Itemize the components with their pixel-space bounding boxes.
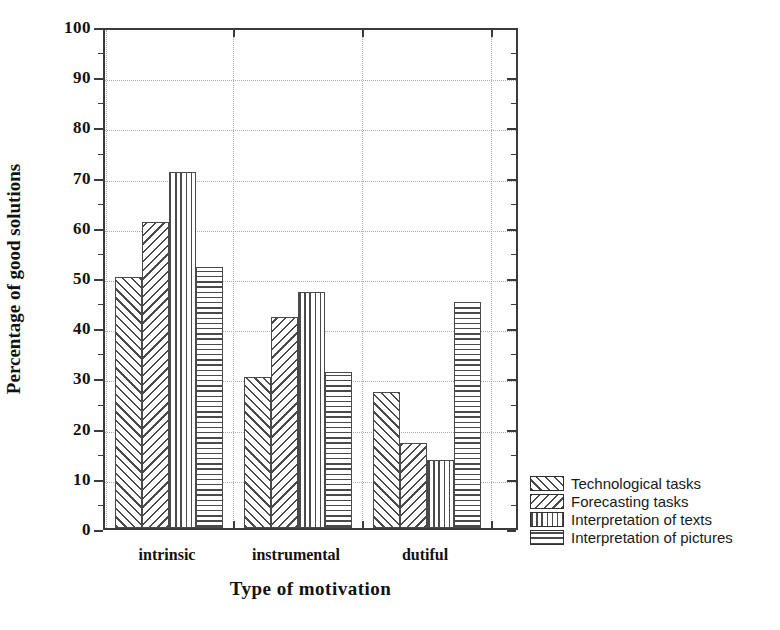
y-tick-major [94, 279, 103, 281]
y-tick-label: 70 [73, 169, 91, 189]
bar [169, 172, 196, 528]
bar [196, 267, 223, 528]
y-tick-major-right [507, 128, 516, 130]
gridline-vertical [106, 30, 107, 528]
y-tick-label: 20 [73, 420, 91, 440]
y-tick-label: 50 [73, 269, 91, 289]
y-tick-minor-right [511, 455, 516, 456]
y-tick-minor [98, 505, 103, 506]
y-tick-major-right [507, 179, 516, 181]
y-axis-title: Percentage of good solutions [3, 164, 25, 394]
y-tick-major [94, 28, 103, 30]
y-tick-minor [98, 455, 103, 456]
y-tick-major-right [507, 229, 516, 231]
y-tick-major [94, 78, 103, 80]
legend-label: Forecasting tasks [571, 494, 689, 509]
y-tick-minor [98, 154, 103, 155]
legend-item: Interpretation of texts [530, 512, 733, 527]
legend-swatch-icon [530, 512, 564, 527]
x-tick-top [362, 30, 364, 37]
y-tick-label: 60 [73, 219, 91, 239]
gridline-horizontal [105, 181, 516, 182]
x-tick-top [233, 30, 235, 37]
y-tick-major-right [507, 78, 516, 80]
bar [244, 377, 271, 528]
y-tick-minor [98, 103, 103, 104]
legend-swatch-icon [530, 476, 564, 491]
x-tick-label: instrumental [252, 546, 340, 564]
bar-chart-figure: Percentage of good solutions 01020304050… [0, 0, 780, 630]
y-tick-major [94, 480, 103, 482]
y-tick-major-right [507, 28, 516, 30]
y-tick-major-right [507, 530, 516, 532]
legend-label: Interpretation of pictures [571, 530, 733, 545]
y-tick-label: 0 [82, 520, 91, 540]
legend-label: Technological tasks [571, 476, 701, 491]
y-tick-major-right [507, 379, 516, 381]
y-tick-minor [98, 405, 103, 406]
y-tick-major-right [507, 279, 516, 281]
plot-inner [105, 30, 516, 528]
y-tick-major [94, 229, 103, 231]
x-tick-top [491, 30, 493, 37]
y-tick-major-right [507, 329, 516, 331]
bar [454, 302, 481, 528]
y-tick-minor [98, 204, 103, 205]
legend-swatch-icon [530, 494, 564, 509]
y-tick-minor [98, 254, 103, 255]
legend: Technological tasksForecasting tasksInte… [530, 476, 733, 545]
bar [427, 460, 454, 528]
y-tick-minor-right [511, 405, 516, 406]
bar [115, 277, 142, 528]
y-tick-major-right [507, 480, 516, 482]
y-tick-major [94, 530, 103, 532]
y-tick-minor [98, 354, 103, 355]
y-tick-minor-right [511, 154, 516, 155]
y-tick-major [94, 430, 103, 432]
x-axis-title: Type of motivation [103, 578, 518, 600]
y-tick-minor-right [511, 304, 516, 305]
y-tick-minor-right [511, 204, 516, 205]
y-tick-major [94, 329, 103, 331]
legend-swatch-icon [530, 530, 564, 545]
gridline-horizontal [105, 80, 516, 81]
gridline-horizontal [105, 130, 516, 131]
plot-area [103, 28, 518, 530]
x-tick [362, 521, 364, 528]
y-tick-label: 40 [73, 319, 91, 339]
x-tick [233, 521, 235, 528]
y-tick-major-right [507, 430, 516, 432]
y-tick-label: 10 [73, 470, 91, 490]
bar [271, 317, 298, 528]
y-tick-major [94, 128, 103, 130]
bar [298, 292, 325, 528]
y-tick-minor [98, 53, 103, 54]
legend-item: Forecasting tasks [530, 494, 733, 509]
bar [325, 372, 352, 528]
y-tick-label: 90 [73, 68, 91, 88]
bar [400, 443, 427, 528]
bar [142, 222, 169, 528]
x-tick-label: dutiful [402, 546, 448, 564]
y-tick-minor-right [511, 505, 516, 506]
y-tick-minor [98, 304, 103, 305]
gridline-vertical [362, 30, 363, 528]
gridline-vertical [233, 30, 234, 528]
y-tick-major [94, 379, 103, 381]
bar [373, 392, 400, 528]
x-tick-label: intrinsic [139, 546, 196, 564]
y-tick-label: 30 [73, 369, 91, 389]
y-tick-label: 80 [73, 118, 91, 138]
y-tick-minor-right [511, 354, 516, 355]
legend-label: Interpretation of texts [571, 512, 712, 527]
x-tick [491, 521, 493, 528]
gridline-vertical [491, 30, 492, 528]
y-tick-label: 100 [64, 18, 91, 38]
legend-item: Interpretation of pictures [530, 530, 733, 545]
legend-item: Technological tasks [530, 476, 733, 491]
y-tick-major [94, 179, 103, 181]
y-tick-minor-right [511, 254, 516, 255]
y-tick-minor-right [511, 103, 516, 104]
y-tick-minor-right [511, 53, 516, 54]
